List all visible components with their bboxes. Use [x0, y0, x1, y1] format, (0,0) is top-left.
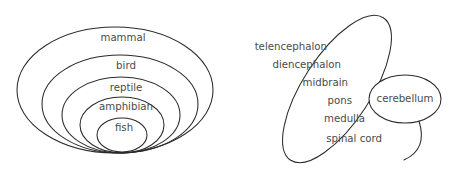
label-amphibian: amphibian — [99, 101, 153, 112]
label-diencephalon: diencephalon — [272, 59, 341, 70]
nested-vertebrate-classes: mammal bird reptile amphibian fish — [17, 27, 213, 153]
label-medulla: medulla — [324, 113, 365, 124]
brain-regions: telencephalon diencephalon midbrain pons… — [255, 0, 441, 179]
label-cerebellum: cerebellum — [377, 93, 434, 104]
label-reptile: reptile — [110, 82, 143, 93]
label-bird: bird — [116, 60, 136, 71]
label-midbrain: midbrain — [303, 77, 348, 88]
label-mammal: mammal — [100, 32, 145, 43]
label-spinal-cord: spinal cord — [326, 133, 382, 144]
label-fish: fish — [115, 122, 133, 133]
cerebellum-tail — [404, 121, 421, 160]
biology-comparison-figure: mammal bird reptile amphibian fish telen… — [0, 0, 450, 179]
figure-canvas: mammal bird reptile amphibian fish telen… — [0, 0, 450, 179]
label-pons: pons — [328, 95, 352, 106]
label-telencephalon: telencephalon — [255, 41, 327, 52]
